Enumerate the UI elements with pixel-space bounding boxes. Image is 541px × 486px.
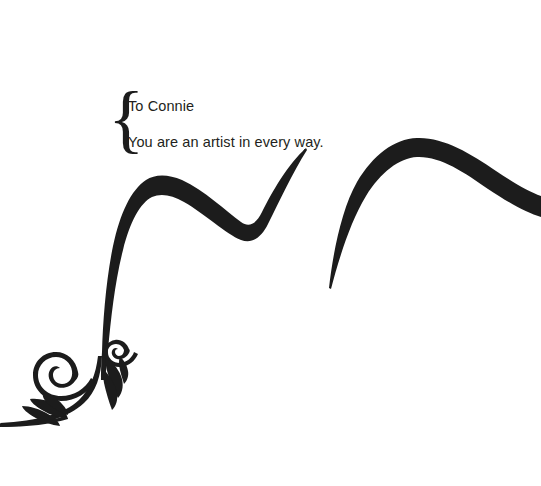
message-line: You are an artist in every way. <box>128 134 324 150</box>
curly-brace-icon: { <box>108 88 128 152</box>
floral-flourish <box>0 340 138 427</box>
greeting-card-canvas: { To Connie You are an artist in every w… <box>0 0 541 486</box>
message-block: { To Connie You are an artist in every w… <box>108 92 368 152</box>
swoosh-left-body <box>101 148 307 380</box>
recipient-line: To Connie <box>128 98 324 114</box>
message-lines: To Connie You are an artist in every way… <box>128 92 324 152</box>
swoosh-right-body <box>329 138 541 289</box>
calligraphic-swoosh-right <box>329 138 541 289</box>
calligraphic-swoosh-left <box>101 148 307 380</box>
decorative-artwork <box>0 0 541 486</box>
